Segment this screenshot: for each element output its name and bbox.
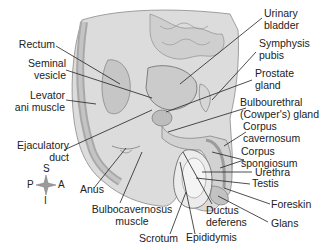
label-line: Ductus: [206, 205, 247, 217]
compass-inferior: I: [44, 196, 47, 206]
label-anus: Anus: [80, 184, 104, 196]
label-line: deferens: [206, 217, 247, 229]
label-prostate-gland: Prostate gland: [255, 68, 294, 91]
label-line: cavernosum: [243, 133, 300, 145]
label-seminal-vesicle: Seminal vesicle: [8, 58, 66, 81]
label-line: Bulbourethral: [240, 97, 319, 109]
label-line: (Cowper's) gland: [240, 109, 319, 121]
label-line: pubis: [259, 50, 310, 62]
label-line: Corpus: [243, 121, 300, 133]
compass-anterior: A: [58, 180, 65, 190]
label-epididymis: Epididymis: [186, 232, 237, 244]
label-line: Seminal: [8, 58, 66, 70]
label-line: vesicle: [8, 70, 66, 82]
label-ductus-deferens: Ductus deferens: [206, 205, 247, 228]
label-line: ani muscle: [4, 102, 65, 114]
compass-superior: S: [43, 164, 50, 174]
label-ejaculatory-duct: Ejaculatory duct: [4, 140, 69, 163]
label-line: duct: [4, 152, 69, 164]
label-testis: Testis: [252, 178, 279, 190]
label-line: Ejaculatory: [4, 140, 69, 152]
anatomy-diagram: Urinary bladder Symphysis pubis Prostate…: [0, 0, 323, 250]
label-urinary-bladder: Urinary bladder: [264, 8, 299, 31]
label-bulbocavernosus-muscle: Bulbocavernosus muscle: [88, 204, 176, 227]
label-scrotum: Scrotum: [139, 233, 178, 245]
label-rectum: Rectum: [8, 39, 55, 51]
compass-posterior: P: [27, 180, 34, 190]
label-glans: Glans: [271, 218, 298, 230]
label-line: Corpus: [241, 146, 298, 158]
label-line: Symphysis: [259, 38, 310, 50]
label-line: Urinary: [264, 8, 299, 20]
label-bulbourethral-gland: Bulbourethral (Cowper's) gland: [240, 97, 319, 120]
label-levator-ani-muscle: Levator ani muscle: [4, 90, 65, 113]
label-line: Levator: [4, 90, 65, 102]
label-symphysis-pubis: Symphysis pubis: [259, 38, 310, 61]
label-line: bladder: [264, 20, 299, 32]
label-line: muscle: [88, 216, 176, 228]
label-line: Prostate: [255, 68, 294, 80]
label-line: gland: [255, 80, 294, 92]
label-foreskin: Foreskin: [271, 199, 311, 211]
label-corpus-cavernosum: Corpus cavernosum: [243, 121, 300, 144]
orientation-compass: S I P A: [26, 164, 66, 206]
label-line: Bulbocavernosus: [88, 204, 176, 216]
